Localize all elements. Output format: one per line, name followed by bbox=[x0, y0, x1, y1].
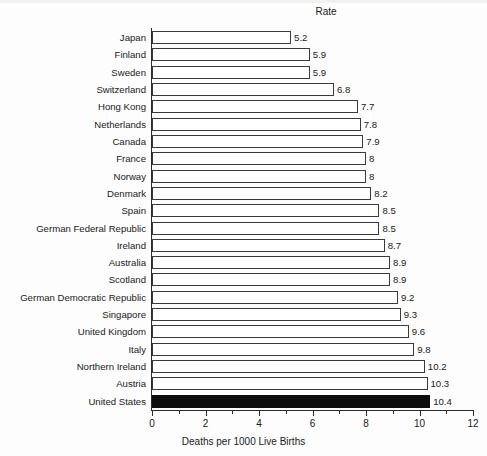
bar-value-label: 8.5 bbox=[382, 204, 395, 217]
x-axis-minor-tick bbox=[286, 411, 287, 414]
bar-row[interactable]: United Kingdom9.6 bbox=[152, 323, 473, 341]
bar-row[interactable]: Finland5.9 bbox=[152, 46, 473, 64]
x-axis-tick-label: 0 bbox=[137, 418, 167, 430]
bar-row[interactable]: Ireland8.7 bbox=[152, 237, 473, 255]
bar-row[interactable]: Singapore9.3 bbox=[152, 306, 473, 324]
bar[interactable] bbox=[152, 325, 409, 338]
bar[interactable] bbox=[152, 187, 371, 200]
x-axis-minor-tick bbox=[179, 411, 180, 414]
bar-value-label: 9.3 bbox=[404, 308, 417, 321]
bar-category-label: Italy bbox=[6, 343, 146, 356]
bar-category-label: France bbox=[6, 152, 146, 165]
bar[interactable] bbox=[152, 360, 425, 373]
bar-row[interactable]: Sweden5.9 bbox=[152, 64, 473, 82]
bar[interactable] bbox=[152, 291, 398, 304]
bar-value-label: 9.6 bbox=[412, 325, 425, 338]
bar[interactable] bbox=[152, 100, 358, 113]
bar-category-label: United States bbox=[6, 395, 146, 408]
bar-category-label: Japan bbox=[6, 31, 146, 44]
bar-category-label: Austria bbox=[6, 377, 146, 390]
bar[interactable] bbox=[152, 343, 414, 356]
x-axis-minor-tick bbox=[232, 411, 233, 414]
bar-row[interactable]: France8 bbox=[152, 150, 473, 168]
bar-row[interactable]: Austria10.3 bbox=[152, 375, 473, 393]
bar-value-label: 9.8 bbox=[417, 343, 430, 356]
bar-category-label: Australia bbox=[6, 256, 146, 269]
bar-value-label: 8 bbox=[369, 152, 374, 165]
x-axis-tick bbox=[206, 411, 207, 416]
bar[interactable] bbox=[152, 170, 366, 183]
bar-category-label: Finland bbox=[6, 48, 146, 61]
bar-value-label: 8.5 bbox=[382, 222, 395, 235]
bar-value-label: 5.9 bbox=[313, 66, 326, 79]
bar[interactable] bbox=[152, 152, 366, 165]
x-axis-tick-label: 10 bbox=[405, 418, 435, 430]
bar-category-label: Ireland bbox=[6, 239, 146, 252]
bar[interactable] bbox=[152, 204, 379, 217]
bar[interactable] bbox=[152, 83, 334, 96]
bar[interactable] bbox=[152, 377, 428, 390]
bar[interactable] bbox=[152, 395, 430, 408]
x-axis-tick bbox=[259, 411, 260, 416]
bar-value-label: 7.8 bbox=[364, 118, 377, 131]
bar-category-label: Sweden bbox=[6, 66, 146, 79]
bar-row[interactable]: German Federal Republic8.5 bbox=[152, 220, 473, 238]
bar-category-label: Switzerland bbox=[6, 83, 146, 96]
bar-category-label: Spain bbox=[6, 204, 146, 217]
x-axis-tick-label: 2 bbox=[191, 418, 221, 430]
bar[interactable] bbox=[152, 31, 291, 44]
bar-value-label: 9.2 bbox=[401, 291, 414, 304]
bar-value-label: 7.9 bbox=[366, 135, 379, 148]
x-axis-tick bbox=[313, 411, 314, 416]
x-axis-tick-label: 6 bbox=[298, 418, 328, 430]
bar-row[interactable]: German Democratic Republic9.2 bbox=[152, 289, 473, 307]
bar-row[interactable]: Australia8.9 bbox=[152, 254, 473, 272]
x-axis-tick-label: 8 bbox=[351, 418, 381, 430]
bar-category-label: Scotland bbox=[6, 273, 146, 286]
bar-category-label: United Kingdom bbox=[6, 325, 146, 338]
bar-category-label: Canada bbox=[6, 135, 146, 148]
plot-area: Japan5.2Finland5.9Sweden5.9Switzerland6.… bbox=[152, 29, 473, 410]
bar-value-label: 10.3 bbox=[431, 377, 450, 390]
bar-row[interactable]: Switzerland6.8 bbox=[152, 81, 473, 99]
x-axis-title: Deaths per 1000 Live Births bbox=[0, 436, 487, 448]
bar-row[interactable]: United States10.4 bbox=[152, 393, 473, 411]
bar[interactable] bbox=[152, 135, 363, 148]
bar-category-label: Denmark bbox=[6, 187, 146, 200]
rate-column-header: Rate bbox=[296, 6, 356, 18]
bar-value-label: 8.9 bbox=[393, 273, 406, 286]
bar-category-label: Netherlands bbox=[6, 118, 146, 131]
bar[interactable] bbox=[152, 48, 310, 61]
bar-row[interactable]: Hong Kong7.7 bbox=[152, 98, 473, 116]
bar[interactable] bbox=[152, 66, 310, 79]
bar-value-label: 8 bbox=[369, 170, 374, 183]
bar-value-label: 6.8 bbox=[337, 83, 350, 96]
bar-row[interactable]: Denmark8.2 bbox=[152, 185, 473, 203]
bar-row[interactable]: Norway8 bbox=[152, 168, 473, 186]
bar-value-label: 8.7 bbox=[388, 239, 401, 252]
bar-row[interactable]: Japan5.2 bbox=[152, 29, 473, 47]
bar[interactable] bbox=[152, 256, 390, 269]
bar[interactable] bbox=[152, 273, 390, 286]
bar-row[interactable]: Spain8.5 bbox=[152, 202, 473, 220]
bar-value-label: 8.2 bbox=[374, 187, 387, 200]
x-axis-tick-label: 4 bbox=[244, 418, 274, 430]
bar[interactable] bbox=[152, 222, 379, 235]
bar[interactable] bbox=[152, 118, 361, 131]
bar-value-label: 10.2 bbox=[428, 360, 447, 373]
bar-row[interactable]: Netherlands7.8 bbox=[152, 116, 473, 134]
infant-mortality-bar-chart: Rate Japan5.2Finland5.9Sweden5.9Switzerl… bbox=[0, 0, 487, 456]
bar-value-label: 7.7 bbox=[361, 100, 374, 113]
x-axis-minor-tick bbox=[393, 411, 394, 414]
bar[interactable] bbox=[152, 308, 401, 321]
bar-row[interactable]: Northern Ireland10.2 bbox=[152, 358, 473, 376]
bar-row[interactable]: Canada7.9 bbox=[152, 133, 473, 151]
x-axis-tick bbox=[152, 411, 153, 416]
bar-row[interactable]: Scotland8.9 bbox=[152, 271, 473, 289]
x-axis-tick bbox=[473, 411, 474, 416]
bar-category-label: Singapore bbox=[6, 308, 146, 321]
bar-value-label: 5.2 bbox=[294, 31, 307, 44]
x-axis-tick bbox=[366, 411, 367, 416]
bar-row[interactable]: Italy9.8 bbox=[152, 341, 473, 359]
bar[interactable] bbox=[152, 239, 385, 252]
